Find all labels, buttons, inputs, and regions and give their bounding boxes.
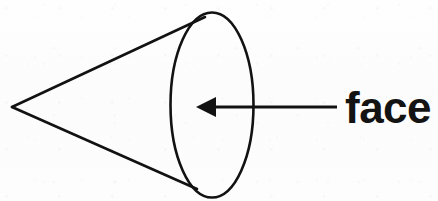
figure-canvas: face xyxy=(0,0,438,201)
annotation-arrowhead-icon xyxy=(196,97,216,117)
cone-diagram: face xyxy=(0,0,438,201)
annotation-label-face: face xyxy=(345,83,431,132)
cone-slant-line-bottom xyxy=(12,107,197,189)
